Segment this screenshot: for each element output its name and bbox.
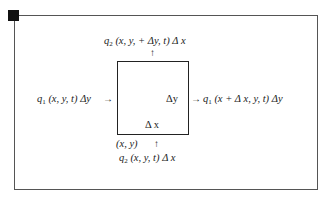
right-flux-label: q1 (x + Δ x, y, t) Δy	[203, 93, 283, 108]
height-label: Δy	[166, 93, 178, 105]
left-right-arrow-icon: →	[103, 94, 113, 104]
width-label: Δ x	[145, 119, 159, 131]
bottom-flux-label: q2 (x, y, t) Δ x	[119, 152, 175, 167]
top-up-arrow-icon: ↑	[150, 48, 155, 58]
left-flux-label: q1 (x, y, t) Δy	[37, 93, 91, 108]
top-flux-label: q2 (x, y, + Δy, t) Δ x	[104, 35, 186, 50]
bottom-up-arrow-icon: ↑	[154, 139, 159, 149]
origin-label: (x, y)	[116, 138, 138, 150]
right-right-arrow-icon: →	[191, 94, 201, 104]
corner-marker	[8, 10, 19, 21]
